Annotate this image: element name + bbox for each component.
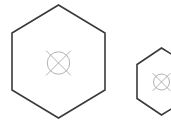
drawing-canvas xyxy=(0,0,171,125)
canvas-background xyxy=(0,0,171,125)
shape-scene xyxy=(0,0,171,125)
